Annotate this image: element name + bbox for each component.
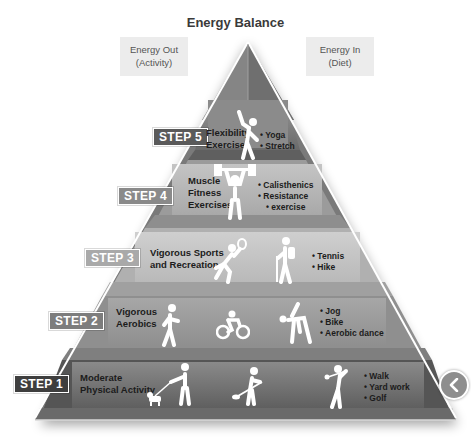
hiker-icon — [272, 236, 298, 284]
golfer-icon — [322, 363, 352, 409]
step-4-label: STEP 4 — [118, 187, 173, 205]
step-2-title: Vigorous Aerobics — [116, 306, 157, 330]
bullet-item: Resistance — [258, 191, 313, 202]
step-2-title-line: Vigorous — [116, 306, 157, 318]
bullet-item: Hike — [312, 262, 344, 273]
bullet-item: Calisthenics — [258, 180, 313, 191]
step-1-title: Moderate Physical Activity — [80, 372, 155, 396]
weightlifter-icon — [210, 162, 260, 220]
previous-button[interactable] — [439, 370, 469, 400]
step-4-bullets: Calisthenics Resistance exercise — [258, 180, 313, 213]
bullet-item: Yard work — [364, 382, 410, 393]
bullet-item: exercise — [258, 202, 313, 213]
bullet-item: Aerobic dance — [320, 328, 384, 339]
bullet-item: Walk — [364, 371, 410, 382]
step-5-bullets: Yoga Stretch — [260, 130, 295, 152]
bullet-item: Bike — [320, 317, 384, 328]
dog-walker-icon — [145, 362, 195, 408]
step-2-bullets: Jog Bike Aerobic dance — [320, 306, 384, 339]
step-1-bullets: Walk Yard work Golf — [364, 371, 410, 404]
step-3-label: STEP 3 — [85, 249, 140, 267]
step-1-label: STEP 1 — [14, 375, 69, 393]
tennis-player-icon — [212, 238, 248, 284]
bullet-item: Yoga — [260, 130, 295, 141]
cyclist-icon — [216, 310, 250, 340]
chevron-left-icon — [448, 378, 460, 392]
aerobic-dancer-icon — [278, 302, 314, 346]
step-1-title-line: Physical Activity — [80, 384, 155, 396]
step-2-label: STEP 2 — [49, 312, 104, 330]
step-3-bullets: Tennis Hike — [312, 251, 344, 273]
bullet-item: Stretch — [260, 141, 295, 152]
step-2-title-line: Aerobics — [116, 318, 157, 330]
stretching-person-icon — [233, 110, 263, 160]
bullet-item: Tennis — [312, 251, 344, 262]
step-1-title-line: Moderate — [80, 372, 155, 384]
step-5-label: STEP 5 — [153, 128, 208, 146]
jogger-icon — [158, 303, 182, 347]
bullet-item: Jog — [320, 306, 384, 317]
yard-worker-icon — [230, 366, 270, 406]
bullet-item: Golf — [364, 393, 410, 404]
